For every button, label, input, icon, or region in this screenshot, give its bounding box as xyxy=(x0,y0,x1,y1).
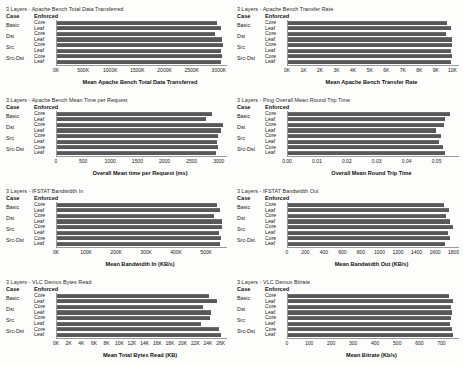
case-label: Basic xyxy=(237,111,265,122)
bars-column xyxy=(287,224,459,235)
x-axis-label: Overall Mean time per Request (ms) xyxy=(53,170,227,176)
bars-column xyxy=(56,31,227,42)
case-label: Dst xyxy=(237,122,265,133)
bar xyxy=(288,231,448,235)
x-tick-label: 300K xyxy=(140,249,152,255)
x-tick-label: 0.03 xyxy=(372,158,382,164)
bars-column xyxy=(287,54,459,65)
bars-column xyxy=(56,20,227,31)
chart-title: 3 Layers - VLC Demux Bitrate xyxy=(237,279,459,285)
x-axis-label: Mean Apache Bench Transfer Rate xyxy=(284,79,459,85)
header-case: Case xyxy=(6,13,34,20)
case-label: Src xyxy=(237,133,265,144)
bars-column xyxy=(287,31,459,42)
bars-column xyxy=(287,122,459,133)
header-case: Case xyxy=(6,104,34,111)
case-label: Basic xyxy=(237,293,265,304)
case-label: Src-Dst xyxy=(6,236,34,247)
case-label: Dst xyxy=(237,304,265,315)
x-tick-label: 300 xyxy=(349,340,357,346)
bars-column xyxy=(287,315,459,326)
case-label: Dst xyxy=(237,31,265,42)
bars-column xyxy=(287,42,459,53)
case-label: Basic xyxy=(237,20,265,31)
chart-rows: BasicCoreLeafDstCoreLeafSrcCoreLeafSrc-D… xyxy=(6,202,227,247)
bar xyxy=(57,316,210,320)
bar xyxy=(288,242,445,246)
case-label: Src xyxy=(6,315,34,326)
x-tick-label: 800 xyxy=(357,249,365,255)
bars-column xyxy=(56,327,227,338)
bar xyxy=(57,123,223,127)
x-tick-label: 5K xyxy=(367,67,373,73)
chart-title: 3 Layers - IFSTAT Bandwidth In xyxy=(6,188,227,194)
enforced-labels: CoreLeaf xyxy=(34,315,56,326)
case-label: Src-Dst xyxy=(6,145,34,156)
bar xyxy=(288,128,436,132)
enforced-labels: CoreLeaf xyxy=(34,224,56,235)
header-case: Case xyxy=(237,286,265,293)
case-group: SrcCoreLeaf xyxy=(6,42,227,53)
bars-column xyxy=(287,293,459,304)
bar xyxy=(57,134,218,138)
case-label: Src-Dst xyxy=(237,236,265,247)
enforced-labels: CoreLeaf xyxy=(265,145,287,156)
x-tick-label: 2500 xyxy=(186,158,197,164)
bars-column xyxy=(56,111,227,122)
bars-column xyxy=(287,111,459,122)
axis-spacer xyxy=(6,247,56,260)
x-tick-label: 0K xyxy=(53,340,59,346)
case-label: Src xyxy=(6,42,34,53)
bar xyxy=(57,208,220,212)
case-group: SrcCoreLeaf xyxy=(6,133,227,144)
case-group: SrcCoreLeaf xyxy=(237,315,459,326)
x-tick-label: 700 xyxy=(437,340,445,346)
bars-column xyxy=(56,122,227,133)
x-axis-label: Mean Bandwidth Out (KB/s) xyxy=(284,261,459,267)
enforced-labels: CoreLeaf xyxy=(265,315,287,326)
x-tick-label: 26K xyxy=(216,340,225,346)
bar xyxy=(288,60,451,64)
x-tick-label: 1800 xyxy=(448,249,459,255)
x-tick-label: 22K xyxy=(191,340,200,346)
x-tick-label: 8K xyxy=(104,340,110,346)
case-label: Dst xyxy=(6,122,34,133)
case-label: Dst xyxy=(6,304,34,315)
bars-column xyxy=(56,315,227,326)
axis-spacer xyxy=(237,156,287,169)
bars-column xyxy=(56,42,227,53)
bar xyxy=(57,236,221,240)
enforced-labels: CoreLeaf xyxy=(265,54,287,65)
case-label: Dst xyxy=(237,213,265,224)
bar xyxy=(288,294,449,298)
case-label: Src xyxy=(237,224,265,235)
chart-rows: BasicCoreLeafDstCoreLeafSrcCoreLeafSrc-D… xyxy=(6,293,227,338)
enforced-labels: CoreLeaf xyxy=(265,236,287,247)
bar xyxy=(288,112,450,116)
bar xyxy=(288,327,452,331)
bar xyxy=(288,316,451,320)
case-label: Src xyxy=(6,224,34,235)
bar xyxy=(288,145,443,149)
case-group: Src-DstCoreLeaf xyxy=(237,327,459,338)
case-group: SrcCoreLeaf xyxy=(237,133,459,144)
x-tick-label: 0K xyxy=(284,67,290,73)
chart-rows: BasicCoreLeafDstCoreLeafSrcCoreLeafSrc-D… xyxy=(237,293,459,338)
bar xyxy=(57,242,220,246)
case-label: Basic xyxy=(6,111,34,122)
x-axis: 0K500K1000K1500K2000K2500K3000K xyxy=(56,65,227,78)
x-tick-label: 500 xyxy=(393,340,401,346)
x-tick-label: 6K xyxy=(383,67,389,73)
bar xyxy=(57,145,218,149)
x-tick-label: 500 xyxy=(79,158,87,164)
enforced-labels: CoreLeaf xyxy=(34,42,56,53)
bar xyxy=(288,117,445,121)
x-tick-label: 2000K xyxy=(157,67,171,73)
bar xyxy=(288,134,441,138)
x-axis-label: Overall Mean Round Trip Time xyxy=(284,170,459,176)
x-tick-label: 1000 xyxy=(105,158,116,164)
chart-panel: 3 Layers - Apache Bench Transfer RateCas… xyxy=(231,0,463,91)
case-group: Src-DstCoreLeaf xyxy=(6,327,227,338)
case-label: Basic xyxy=(6,20,34,31)
x-axis-label: Mean Bandwidth In (KB/s) xyxy=(53,261,227,267)
